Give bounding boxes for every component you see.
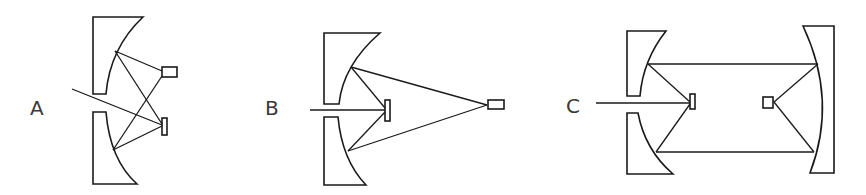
panel-b-ray: [351, 67, 385, 108]
panel-b-bottom-mirror: [324, 117, 366, 185]
panel-a-label: A: [30, 96, 44, 120]
panel-c-ray: [774, 102, 814, 152]
panel-c-right-mirror: [803, 26, 834, 173]
panel-c-ray: [774, 64, 818, 102]
panel-b-ray: [351, 67, 487, 105]
panel-b-detector: [488, 100, 504, 109]
panel-c: C: [566, 26, 834, 174]
panel-a-detector: [162, 67, 177, 77]
panel-c-bottom-left-mirror: [627, 113, 673, 174]
optical-diagram: A B C: [0, 0, 866, 195]
panel-c-ray: [648, 64, 690, 102]
panel-a-grating: [162, 118, 167, 135]
panel-c-grating: [690, 94, 695, 109]
panel-b: B: [265, 33, 504, 185]
panel-b-label: B: [265, 96, 279, 120]
panel-c-detector: [763, 97, 773, 108]
panel-c-ray: [656, 104, 690, 152]
panel-a: A: [30, 17, 177, 184]
panel-b-grating: [385, 100, 390, 121]
panel-a-input-beam: [72, 89, 162, 125]
panel-c-label: C: [566, 94, 580, 118]
panel-b-ray: [348, 105, 487, 151]
